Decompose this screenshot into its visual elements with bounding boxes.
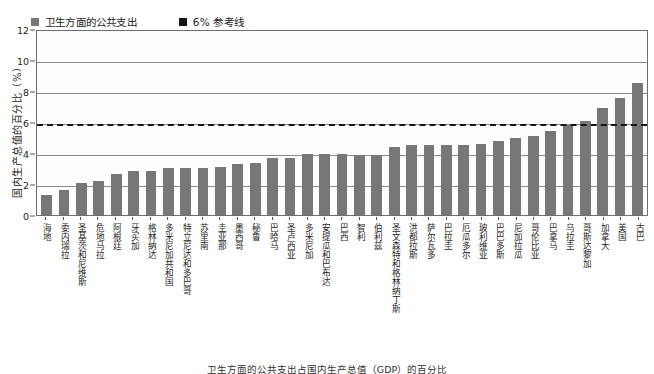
x-axis-tick-mark — [219, 217, 220, 220]
x-axis-tick-label: 尼加拉瓜 — [511, 223, 520, 259]
x-axis-category: 墨西哥 — [229, 218, 246, 348]
x-axis-category: 圣卢西亚 — [281, 218, 298, 348]
legend-swatch-icon — [31, 18, 39, 26]
x-axis-category: 巴拉圭 — [438, 218, 455, 348]
bar[interactable] — [545, 131, 556, 215]
x-axis-category: 加拿大 — [595, 218, 612, 348]
x-axis-tick-mark — [638, 217, 639, 220]
bar-slot — [386, 31, 403, 215]
x-axis-category: 尼加拉瓜 — [507, 218, 524, 348]
bar[interactable] — [389, 147, 400, 215]
bar-slot — [577, 31, 594, 215]
bar-slot — [55, 31, 72, 215]
x-axis-category: 委内瑞拉 — [54, 218, 71, 348]
bar-slot — [333, 31, 350, 215]
x-axis-tick-mark — [115, 217, 116, 220]
x-axis-category: 秘鲁 — [246, 218, 263, 348]
y-axis-tick-label: 2 — [23, 180, 29, 191]
bar[interactable] — [493, 141, 504, 215]
x-axis-tick-mark — [359, 217, 360, 220]
bar[interactable] — [563, 125, 574, 215]
bar[interactable] — [319, 154, 330, 215]
x-axis-tick-label: 安提瓜和巴布达 — [320, 223, 329, 286]
x-axis-tick-mark — [202, 217, 203, 220]
x-axis-tick-label: 海地 — [41, 223, 50, 241]
x-axis-tick-mark — [516, 217, 517, 220]
x-axis-tick-label: 委内瑞拉 — [58, 223, 67, 259]
chart-legend: 卫生方面的公共支出 6% 参考线 — [31, 15, 244, 29]
x-axis-tick-label: 厄瓜多尔 — [459, 223, 468, 259]
x-axis-tick-label: 圭亚那 — [215, 223, 224, 250]
bar[interactable] — [93, 181, 104, 216]
legend-label: 6% 参考线 — [193, 16, 244, 28]
x-axis-tick-mark — [550, 217, 551, 220]
x-axis-category: 多米尼加 — [298, 218, 315, 348]
x-axis-tick-label: 巴拿马 — [546, 223, 555, 250]
bar[interactable] — [510, 138, 521, 215]
x-axis-tick-label: 苏里南 — [198, 223, 207, 250]
x-axis-category: 古巴 — [629, 218, 646, 348]
bar[interactable] — [76, 183, 87, 215]
bar[interactable] — [424, 145, 435, 215]
x-axis-tick-label: 加拿大 — [599, 223, 608, 250]
bar[interactable] — [441, 145, 452, 215]
x-axis-category: 巴巴多斯 — [490, 218, 507, 348]
bar[interactable] — [302, 154, 313, 215]
bar[interactable] — [406, 145, 417, 215]
bar[interactable] — [528, 136, 539, 215]
bar[interactable] — [371, 155, 382, 215]
y-axis-tick-label: 8 — [23, 87, 29, 98]
bar[interactable] — [250, 163, 261, 215]
bar[interactable] — [580, 121, 591, 215]
bar-slot — [194, 31, 211, 215]
bar[interactable] — [354, 155, 365, 215]
x-axis-category: 智利 — [351, 218, 368, 348]
bar-slot — [229, 31, 246, 215]
bar-slot — [403, 31, 420, 215]
y-axis-tick-label: 4 — [23, 149, 29, 160]
x-axis-tick-mark — [307, 217, 308, 220]
y-axis-tick-mark — [30, 185, 35, 186]
x-axis-tick-mark — [533, 217, 534, 220]
bar[interactable] — [59, 190, 70, 215]
x-axis-tick-label: 特立尼达和多巴哥 — [180, 223, 189, 295]
bar[interactable] — [180, 168, 191, 215]
legend-label: 卫生方面的公共支出 — [45, 16, 137, 28]
bar-slot — [90, 31, 107, 215]
bar[interactable] — [146, 171, 157, 215]
bar[interactable] — [458, 145, 469, 215]
bar-slot — [525, 31, 542, 215]
x-axis-tick-label: 巴西 — [337, 223, 346, 241]
bar[interactable] — [337, 154, 348, 215]
x-axis-tick-mark — [620, 217, 621, 220]
x-axis-tick-mark — [289, 217, 290, 220]
bar[interactable] — [128, 171, 139, 215]
x-axis-tick-label: 伯利兹 — [372, 223, 381, 250]
bar-slot — [160, 31, 177, 215]
x-axis-tick-label: 乌拉圭 — [564, 223, 573, 250]
bar[interactable] — [615, 98, 626, 215]
x-axis-category: 特立尼达和多巴哥 — [176, 218, 193, 348]
bar[interactable] — [285, 158, 296, 216]
x-axis-tick-label: 巴拉圭 — [442, 223, 451, 250]
bar[interactable] — [163, 168, 174, 215]
x-axis-tick-mark — [167, 217, 168, 220]
bar[interactable] — [632, 83, 643, 215]
x-axis-category: 乌拉圭 — [560, 218, 577, 348]
bar[interactable] — [232, 164, 243, 215]
bar-slot — [177, 31, 194, 215]
bar[interactable] — [111, 174, 122, 215]
bar-chart: 卫生方面的公共支出 6% 参考线 国内生产总值的百分比（%） 024681012… — [0, 0, 654, 374]
x-axis-tick-mark — [272, 217, 273, 220]
x-axis-tick-mark — [376, 217, 377, 220]
bar[interactable] — [476, 144, 487, 215]
bar-slot — [212, 31, 229, 215]
bar-slot — [611, 31, 628, 215]
bar[interactable] — [198, 168, 209, 215]
x-axis-category: 巴西 — [333, 218, 350, 348]
bar[interactable] — [41, 195, 52, 215]
bar[interactable] — [215, 167, 226, 215]
bar[interactable] — [267, 158, 278, 216]
x-axis-tick-label: 格林纳达 — [146, 223, 155, 259]
x-axis-tick-label: 哥斯达黎加 — [581, 223, 590, 268]
